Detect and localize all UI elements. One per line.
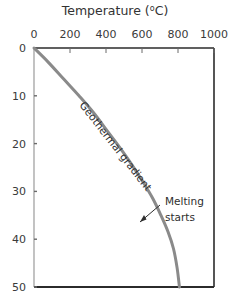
- melting-starts-label-line1: Melting: [165, 195, 204, 207]
- y-tick-label: 50: [12, 281, 26, 294]
- plot-frame: [34, 48, 214, 287]
- x-tick-label: 0: [31, 28, 38, 41]
- y-axis-tick-labels: 01020304050: [12, 42, 26, 294]
- y-tick-label: 30: [12, 185, 26, 198]
- geothermal-gradient-curve: [34, 48, 179, 287]
- x-tick-label: 1000: [200, 28, 228, 41]
- chart-title: Temperature (oC): [61, 3, 169, 18]
- x-tick-label: 600: [132, 28, 153, 41]
- melting-starts-annotation: Melting starts: [140, 195, 204, 223]
- geothermal-gradient-label: Geothermal gradient: [77, 99, 154, 193]
- y-tick-label: 0: [19, 42, 26, 55]
- x-axis-tick-labels: 02004006008001000: [31, 28, 229, 41]
- melting-starts-arrowhead: [140, 215, 147, 222]
- x-tick-label: 400: [96, 28, 117, 41]
- chart-canvas: Temperature (oC) 02004006008001000 01020…: [0, 0, 230, 299]
- y-tick-label: 40: [12, 233, 26, 246]
- melting-starts-label-line2: starts: [165, 211, 195, 223]
- y-tick-label: 10: [12, 90, 26, 103]
- x-tick-label: 800: [168, 28, 189, 41]
- x-tick-label: 200: [60, 28, 81, 41]
- y-tick-label: 20: [12, 138, 26, 151]
- geothermal-gradient-chart: Temperature (oC) 02004006008001000 01020…: [0, 0, 230, 299]
